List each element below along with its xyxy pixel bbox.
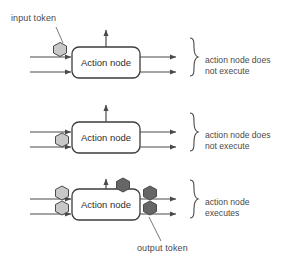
row-1-input-token bbox=[54, 43, 67, 57]
row-2-outcome-label: action node does not execute bbox=[205, 130, 270, 151]
row-3-output-token-up bbox=[117, 178, 130, 192]
row-3-input-token-bottom bbox=[56, 201, 69, 215]
row-2-node-label: Action node bbox=[72, 132, 140, 143]
output-token-label: output token bbox=[137, 243, 188, 254]
row-1-outcome-label: action node does not execute bbox=[205, 55, 270, 76]
row-3-output-token-top bbox=[144, 186, 157, 200]
row-2-brace bbox=[190, 113, 198, 151]
row-3-brace bbox=[190, 180, 198, 218]
row-1-node-label: Action node bbox=[72, 57, 140, 68]
row-3-input-token-top bbox=[56, 186, 69, 200]
input-token-label: input token bbox=[11, 13, 56, 24]
input-token-leader-line bbox=[56, 27, 63, 43]
output-token-leader-line bbox=[149, 217, 161, 241]
action-node-token-diagram: input token Action node action node does… bbox=[0, 0, 293, 264]
row-3-node-label: Action node bbox=[72, 199, 140, 210]
row-3-outcome-label: action node executes bbox=[205, 197, 249, 218]
row-1-group bbox=[30, 27, 198, 78]
row-1-brace bbox=[190, 38, 198, 76]
row-3-output-token-bottom bbox=[144, 201, 157, 215]
row-2-group bbox=[30, 105, 198, 153]
row-2-input-token bbox=[56, 133, 69, 147]
